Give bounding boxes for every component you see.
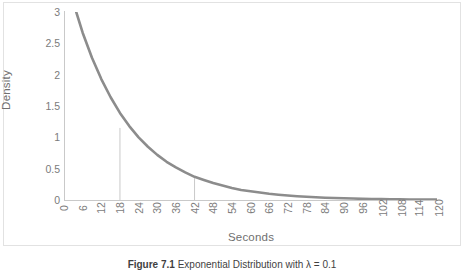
y-axis-title: Density [0, 70, 12, 110]
x-axis-tick-54: 54 [225, 202, 239, 226]
x-axis-tick-120: 120 [430, 202, 444, 226]
density-curve-svg [64, 12, 437, 200]
x-axis-tick-labels: 0612182430364248546066727884909610210811… [64, 202, 438, 228]
y-axis-tick-3: 3 [20, 7, 60, 17]
figure-caption-label: Figure 7.1 [128, 259, 175, 270]
x-axis-tick-12: 12 [94, 202, 108, 226]
x-axis-tick-18: 18 [113, 202, 127, 226]
x-axis-tick-108: 108 [393, 202, 407, 226]
plot-area [64, 12, 437, 200]
y-axis-tick-2: 2 [20, 70, 60, 80]
x-axis-tick-84: 84 [318, 202, 332, 226]
x-axis-tick-42: 42 [188, 202, 202, 226]
y-axis-tick-labels: 00.511.522.53 [14, 0, 60, 220]
x-axis-tick-30: 30 [150, 202, 164, 226]
figure-caption: Figure 7.1 Exponential Distribution with… [0, 259, 464, 271]
x-axis-tick-24: 24 [132, 202, 146, 226]
y-axis-tick-0-5: 0.5 [20, 164, 60, 174]
figure-caption-text: Exponential Distribution with λ = 0.1 [178, 259, 337, 270]
x-axis-tick-60: 60 [244, 202, 258, 226]
x-axis-tick-78: 78 [299, 202, 313, 226]
y-axis-tick-1-5: 1.5 [20, 101, 60, 111]
x-axis-tick-6: 6 [76, 202, 90, 226]
x-axis-title: Seconds [64, 231, 438, 243]
x-axis-tick-114: 114 [411, 202, 425, 226]
x-axis-tick-72: 72 [281, 202, 295, 226]
x-axis-tick-90: 90 [337, 202, 351, 226]
x-axis-tick-0: 0 [57, 202, 71, 226]
x-axis-tick-66: 66 [262, 202, 276, 226]
x-axis-tick-36: 36 [169, 202, 183, 226]
x-axis-tick-96: 96 [355, 202, 369, 226]
exponential-density-curve [76, 12, 437, 200]
y-axis-tick-0: 0 [20, 195, 60, 205]
figure-container: Density 00.511.522.53 061218243036424854… [0, 0, 464, 271]
x-axis-tick-48: 48 [206, 202, 220, 226]
x-axis-tick-102: 102 [374, 202, 388, 226]
y-axis-tick-1: 1 [20, 132, 60, 142]
dropline-group [120, 128, 195, 200]
y-axis-tick-2-5: 2.5 [20, 38, 60, 48]
